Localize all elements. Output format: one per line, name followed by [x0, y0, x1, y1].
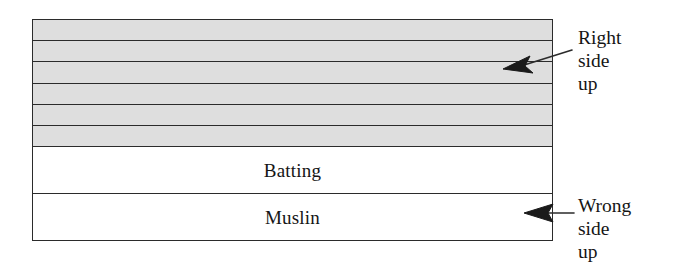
quilt-top-strip [33, 20, 552, 41]
layer-batting: Batting [33, 147, 552, 194]
quilt-top-strip [33, 84, 552, 105]
layer-muslin-label: Muslin [265, 208, 320, 227]
quilt-top-strip [33, 41, 552, 62]
callout-right-side-up-line-2: side [578, 49, 621, 72]
quilt-top-shaded-band [33, 20, 552, 147]
layer-stack-box: Batting Muslin [32, 19, 553, 241]
callout-wrong-side-up: Wrong side up [578, 194, 631, 263]
quilt-top-strip [33, 126, 552, 147]
layer-batting-label: Batting [264, 161, 321, 180]
callout-wrong-side-up-line-3: up [578, 240, 631, 263]
callout-wrong-side-up-line-1: Wrong [578, 194, 631, 217]
quilt-top-strip [33, 62, 552, 83]
quilt-top-strip [33, 105, 552, 126]
layer-muslin: Muslin [33, 194, 552, 240]
quilt-layer-diagram: Batting Muslin Right side up Wrong side … [0, 0, 680, 278]
callout-right-side-up: Right side up [578, 26, 621, 95]
callout-right-side-up-line-1: Right [578, 26, 621, 49]
callout-right-side-up-line-3: up [578, 72, 621, 95]
callout-wrong-side-up-line-2: side [578, 217, 631, 240]
